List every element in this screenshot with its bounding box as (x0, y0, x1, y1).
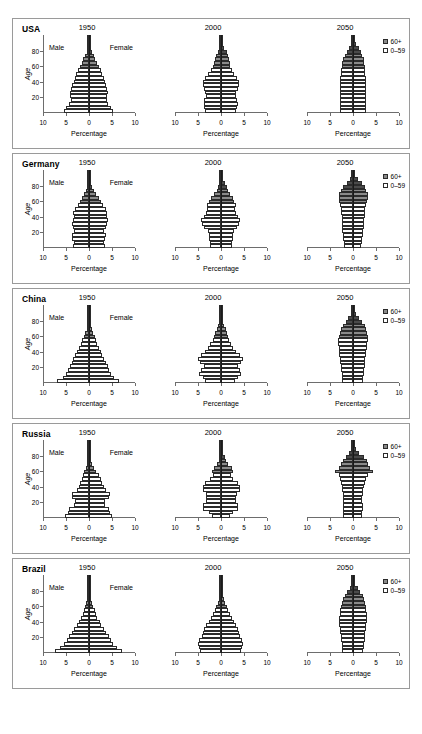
y-tick-label: 80 (32, 182, 39, 189)
bar-female (353, 106, 366, 110)
bar-female (221, 80, 239, 84)
bar-male (204, 627, 221, 631)
female-label: Female (110, 314, 133, 321)
bar-male (77, 623, 89, 627)
center-axis-line (221, 170, 222, 248)
x-tick (66, 383, 67, 386)
bar-female (221, 61, 230, 65)
bar-male (209, 620, 221, 624)
bar-male (209, 200, 221, 204)
y-axis-label: Age (24, 473, 31, 485)
bar-male (340, 83, 353, 87)
bar-female (221, 511, 233, 515)
bar-female (221, 627, 238, 631)
bar-female (221, 50, 227, 54)
x-tick-label: 5 (110, 524, 114, 531)
old-swatch-icon (383, 309, 388, 314)
x-tick (307, 113, 308, 116)
x-tick-label: 10 (131, 254, 138, 261)
bar-male (66, 372, 89, 376)
bar-male (203, 485, 221, 489)
bar-female (221, 477, 233, 481)
y-tick-label: 80 (32, 317, 39, 324)
bar-female (221, 623, 236, 627)
x-tick-label: 10 (395, 659, 402, 666)
subplot-china-1950: 195020406080Age1050510PercentageMaleFema… (17, 289, 145, 418)
bar-female (353, 634, 365, 638)
bar-female (353, 623, 366, 627)
bar-male (202, 634, 221, 638)
bar-male (343, 507, 353, 511)
x-tick (376, 518, 377, 521)
x-tick (89, 113, 90, 116)
bar-female (353, 192, 368, 196)
legend: 60+0–59 (383, 37, 405, 55)
x-tick-label: 5 (110, 254, 114, 261)
bar-male (74, 229, 89, 233)
y-tick-label: 80 (32, 587, 39, 594)
legend-item: 0–59 (383, 46, 405, 55)
bar-female (353, 207, 365, 211)
bar-female (89, 470, 96, 474)
bar-female (221, 327, 226, 331)
country-panel-china: China195020406080Age1050510PercentageMal… (12, 288, 410, 419)
bar-female (89, 623, 101, 627)
legend-item: 0–59 (383, 181, 405, 190)
bar-male (211, 616, 221, 620)
bar-female (353, 215, 365, 219)
bar-male (199, 372, 221, 376)
legend: 60+0–59 (383, 172, 405, 190)
bar-female (89, 106, 111, 110)
bar-male (341, 189, 353, 193)
bar-female (89, 646, 117, 650)
x-tick (43, 518, 44, 521)
bar-male (343, 492, 353, 496)
male-label: Male (49, 314, 64, 321)
bar-male (74, 80, 89, 84)
bar-female (89, 207, 106, 211)
x-tick (221, 518, 222, 521)
bar-female (221, 470, 233, 474)
bar-female (221, 631, 239, 635)
bar-female (89, 372, 111, 376)
bar-male (340, 203, 353, 207)
bar-male (339, 200, 353, 204)
panel-inner: Germany195020406080Age1050510PercentageM… (13, 154, 409, 283)
x-tick (244, 653, 245, 656)
bar-male (67, 638, 89, 642)
x-tick (198, 113, 199, 116)
bar-female (221, 54, 228, 58)
bar-male (210, 342, 221, 346)
bar-female (353, 54, 362, 58)
bar-male (72, 83, 89, 87)
bar-female (89, 72, 102, 76)
bar-female (221, 338, 229, 342)
old-swatch-icon (383, 39, 388, 44)
bar-male (340, 109, 353, 113)
bar-male (73, 244, 89, 248)
legend-label: 60+ (391, 37, 402, 46)
old-swatch-icon (383, 579, 388, 584)
x-tick (66, 248, 67, 251)
x-tick (135, 518, 136, 521)
x-tick (244, 248, 245, 251)
bar-male (209, 237, 221, 241)
bar-female (353, 87, 366, 91)
bar-female (353, 631, 365, 635)
x-tick-label: 5 (64, 524, 68, 531)
x-tick-label: 10 (395, 524, 402, 531)
x-axis-label: Percentage (43, 400, 135, 407)
x-tick (330, 383, 331, 386)
legend-item: 60+ (383, 307, 405, 316)
bar-female (89, 616, 97, 620)
bar-male (205, 76, 221, 80)
year-title: 2000 (149, 158, 277, 167)
x-tick (89, 248, 90, 251)
bar-female (89, 473, 99, 477)
x-tick (135, 653, 136, 656)
x-tick (112, 248, 113, 251)
x-tick-label: 10 (303, 389, 310, 396)
bar-male (339, 466, 353, 470)
bar-male (57, 379, 89, 383)
x-tick (135, 113, 136, 116)
